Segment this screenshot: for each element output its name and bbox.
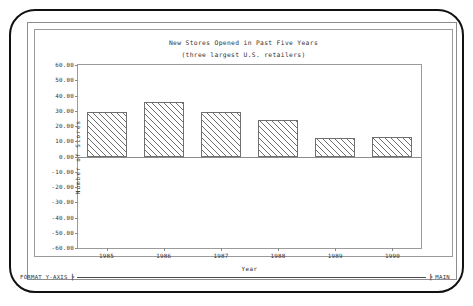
y-axis-tick-label: 60.00 (55, 62, 74, 68)
status-left-tick: ┣ (71, 274, 74, 280)
x-axis-tick-label: 1989 (328, 253, 343, 259)
y-axis-tick-mark (75, 233, 78, 234)
y-axis-tick-mark (75, 80, 78, 81)
y-axis-tick-mark (75, 202, 78, 203)
y-axis-tick-label: 10.00 (55, 138, 74, 144)
x-axis-tick-label: 1987 (213, 253, 228, 259)
y-axis-tick-mark (75, 187, 78, 188)
x-axis-tick-label: 1990 (385, 253, 400, 259)
y-axis-tick-label: 30.00 (55, 108, 74, 114)
status-right-label[interactable]: MAIN (435, 274, 450, 280)
x-axis-tick-mark (164, 248, 165, 251)
y-axis-tick-mark (75, 157, 78, 158)
chart-title: New Stores Opened in Past Five Years (35, 39, 452, 46)
x-axis-tick-label: 1985 (99, 253, 114, 259)
y-axis-tick-mark (75, 172, 78, 173)
y-axis-tick-label: -50.00 (52, 230, 74, 236)
chart-bar[interactable] (144, 102, 184, 156)
plot-area[interactable]: Number of Stores Year 60.0050.0040.0030.… (77, 64, 422, 249)
x-axis-tick-mark (335, 248, 336, 251)
y-axis-tick-label: 50.00 (55, 77, 74, 83)
y-axis-tick-mark (75, 65, 78, 66)
y-axis-tick-label: 20.00 (55, 123, 74, 129)
monitor-bezel: New Stores Opened in Past Five Years (th… (9, 9, 464, 293)
y-axis-tick-mark (75, 96, 78, 97)
y-axis-tick-label: -30.00 (52, 199, 74, 205)
status-bar: FORMAT Y-AXIS ┣ ┣ MAIN (20, 272, 450, 282)
chart-bar[interactable] (372, 137, 412, 156)
chart-bar[interactable] (315, 138, 355, 156)
chart-screen: New Stores Opened in Past Five Years (th… (34, 29, 453, 257)
y-axis-tick-label: -40.00 (52, 215, 74, 221)
chart-subtitle: (three largest U.S. retailers) (35, 51, 452, 58)
y-axis-tick-mark (75, 126, 78, 127)
x-axis-tick-mark (107, 248, 108, 251)
y-axis-tick-label: -10.00 (52, 169, 74, 175)
y-axis-tick-label: -60.00 (52, 245, 74, 251)
status-divider (77, 277, 426, 278)
x-axis-tick-mark (278, 248, 279, 251)
status-right-tick: ┣ (429, 274, 432, 280)
status-left-label[interactable]: FORMAT Y-AXIS (20, 274, 68, 280)
y-axis-tick-mark (75, 111, 78, 112)
chart-bar[interactable] (258, 120, 298, 157)
chart-bar[interactable] (201, 112, 241, 157)
y-axis-tick-label: -20.00 (52, 184, 74, 190)
x-axis-tick-label: 1986 (156, 253, 171, 259)
y-axis-tick-label: 0.00 (59, 154, 74, 160)
chart-bar[interactable] (87, 112, 127, 156)
y-axis-tick-mark (75, 248, 78, 249)
y-axis-tick-label: 40.00 (55, 93, 74, 99)
x-axis-tick-mark (221, 248, 222, 251)
y-axis-tick-mark (75, 218, 78, 219)
y-axis-tick-mark (75, 141, 78, 142)
x-axis-tick-label: 1988 (271, 253, 286, 259)
x-axis-tick-mark (392, 248, 393, 251)
zero-baseline (78, 157, 421, 158)
